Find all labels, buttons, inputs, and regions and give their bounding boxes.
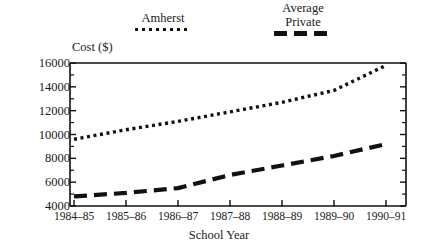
x-axis-title: School Year (0, 228, 438, 243)
chart-figure: Amherst Average Private Cost ($) 4000600… (0, 0, 438, 250)
series-line-amherst (74, 65, 386, 139)
series-line-average-private (74, 144, 386, 196)
data-series-layer (74, 65, 386, 196)
axis-tick-marks (70, 63, 406, 206)
axis-frame (70, 63, 406, 206)
x-tick-label: 1990–91 (351, 210, 421, 222)
